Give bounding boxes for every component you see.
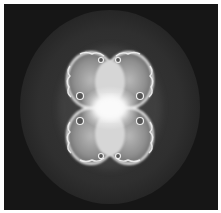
fractal-graphic [4,4,218,210]
fractal-image [4,4,218,210]
